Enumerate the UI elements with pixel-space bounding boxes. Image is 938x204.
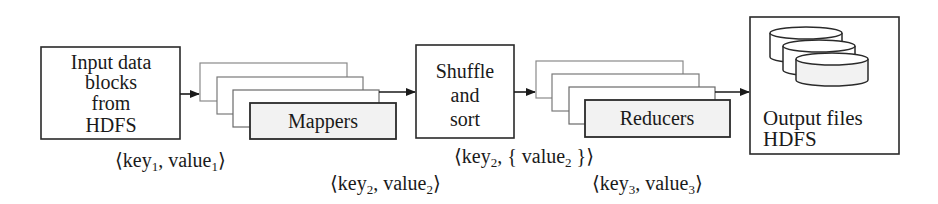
reducers-node: Reducers: [536, 61, 730, 137]
input-data-node: Input data blocks from HDFS: [41, 47, 180, 139]
input-label-line-3: from: [92, 92, 131, 114]
input-pairs-label: ⟨key1, value1⟩: [115, 149, 226, 174]
output-files-node: Output files HDFS: [750, 17, 899, 154]
input-label-line-4: HDFS: [85, 114, 136, 136]
mapper-pairs-label: ⟨key2, value2⟩: [330, 172, 441, 197]
reducer-pairs-label: ⟨key3, value3⟩: [592, 172, 703, 197]
mappers-node: Mappers: [200, 63, 396, 139]
output-label-line-2: HDFS: [763, 127, 817, 151]
mappers-label: Mappers: [288, 110, 358, 133]
shuffle-label-line-3: sort: [450, 108, 480, 130]
shuffle-pairs-label: ⟨key2, { value2 }⟩: [454, 145, 594, 170]
shuffle-label-line-1: Shuffle: [436, 60, 495, 82]
shuffle-label-line-2: and: [451, 84, 480, 106]
shuffle-sort-node: Shuffle and sort: [416, 45, 514, 138]
input-label-line-2: blocks: [85, 71, 137, 93]
mapreduce-diagram: Input data blocks from HDFS Mappers Shuf…: [0, 0, 938, 204]
reducers-label: Reducers: [620, 107, 695, 129]
